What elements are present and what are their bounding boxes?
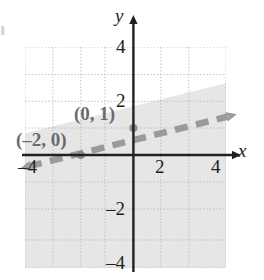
y-tick-2: 2 [116, 90, 126, 112]
y-axis-label: y [115, 5, 123, 27]
x-tick-4: 4 [211, 156, 221, 178]
graph-figure: x y –4 2 4 4 2 –2 –4 (–2, 0) (0, 1) [0, 0, 264, 280]
x-tick-2: 2 [155, 156, 165, 178]
y-tick--2: –2 [106, 198, 125, 220]
x-tick--4: –4 [18, 156, 37, 178]
x-intercept-label: (–2, 0) [16, 129, 67, 151]
y-tick--4: –4 [106, 252, 125, 274]
x-axis-label: x [238, 140, 246, 162]
y-tick-4: 4 [116, 36, 126, 58]
page-edge-mark [1, 26, 5, 35]
y-intercept-label: (0, 1) [74, 103, 115, 125]
